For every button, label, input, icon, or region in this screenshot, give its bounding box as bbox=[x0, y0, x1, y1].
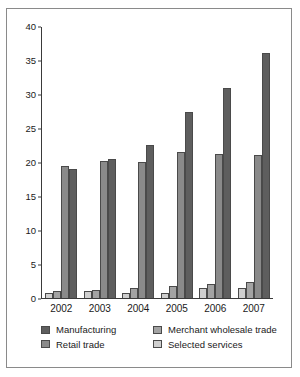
legend-swatch-icon bbox=[41, 340, 50, 348]
y-axis-tick-mark bbox=[38, 95, 41, 96]
plot-area: 0510152025303540 20022003200420052006200… bbox=[41, 27, 273, 299]
bar bbox=[185, 112, 193, 298]
legend-item-label: Manufacturing bbox=[56, 325, 116, 335]
y-axis-tick-mark bbox=[38, 299, 41, 300]
y-axis-tick-label: 20 bbox=[25, 158, 36, 168]
bar bbox=[45, 293, 53, 298]
bar bbox=[53, 291, 61, 298]
bar bbox=[130, 288, 138, 298]
bar bbox=[262, 53, 270, 298]
legend-swatch-icon bbox=[41, 326, 50, 334]
y-axis-tick-mark bbox=[38, 265, 41, 266]
bar bbox=[207, 284, 215, 298]
bar bbox=[69, 169, 77, 298]
bar bbox=[199, 288, 207, 298]
bar bbox=[177, 152, 185, 298]
bar-groups bbox=[42, 27, 273, 298]
bar bbox=[161, 293, 169, 298]
y-axis-tick-mark bbox=[38, 27, 41, 28]
bar-group-2006 bbox=[196, 27, 235, 298]
x-axis-tick-label: 2005 bbox=[158, 299, 197, 314]
x-axis-tick-label: 2007 bbox=[235, 299, 274, 314]
x-axis-tick-label: 2003 bbox=[81, 299, 120, 314]
bar bbox=[223, 88, 231, 298]
chart-page: 0510152025303540 20022003200420052006200… bbox=[0, 0, 300, 377]
y-axis-tick-label: 5 bbox=[31, 260, 36, 270]
bar-group-2004 bbox=[119, 27, 158, 298]
bar bbox=[246, 282, 254, 298]
bar-group-2007 bbox=[235, 27, 274, 298]
bar-group-2002 bbox=[42, 27, 81, 298]
bar bbox=[215, 154, 223, 298]
y-axis-tick-label: 0 bbox=[31, 294, 36, 304]
x-axis-tick-label: 2004 bbox=[119, 299, 158, 314]
bar bbox=[238, 288, 246, 298]
scan-artifact-text bbox=[10, 0, 190, 5]
y-axis-tick-label: 15 bbox=[25, 192, 36, 202]
legend-item: Merchant wholesale trade bbox=[153, 325, 281, 335]
legend-item: Selected services bbox=[153, 340, 281, 350]
legend-item-label: Retail trade bbox=[56, 340, 105, 350]
y-axis-tick-mark bbox=[38, 129, 41, 130]
legend-item: Manufacturing bbox=[41, 325, 153, 335]
x-axis-tick-label: 2002 bbox=[42, 299, 81, 314]
legend-item-label: Merchant wholesale trade bbox=[168, 325, 277, 335]
y-axis-tick-mark bbox=[38, 61, 41, 62]
y-axis-tick-label: 30 bbox=[25, 90, 36, 100]
bar-group-2003 bbox=[81, 27, 120, 298]
bar bbox=[254, 155, 262, 298]
y-axis-tick-mark bbox=[38, 163, 41, 164]
bar bbox=[84, 291, 92, 298]
x-axis-labels: 200220032004200520062007 bbox=[42, 299, 273, 314]
y-axis-tick-label: 40 bbox=[25, 22, 36, 32]
chart-legend: ManufacturingMerchant wholesale tradeRet… bbox=[41, 325, 281, 349]
bar bbox=[61, 166, 69, 298]
y-axis-tick-mark bbox=[38, 231, 41, 232]
bar bbox=[100, 161, 108, 298]
bar bbox=[169, 286, 177, 298]
y-axis-tick-label: 25 bbox=[25, 124, 36, 134]
y-axis-tick-label: 35 bbox=[25, 56, 36, 66]
y-axis-tick-mark bbox=[38, 197, 41, 198]
bar bbox=[122, 293, 130, 298]
bar bbox=[146, 145, 154, 298]
legend-swatch-icon bbox=[153, 340, 162, 348]
x-axis-tick-label: 2006 bbox=[196, 299, 235, 314]
chart-frame: 0510152025303540 20022003200420052006200… bbox=[6, 8, 292, 368]
legend-item: Retail trade bbox=[41, 340, 153, 350]
bar bbox=[108, 159, 116, 298]
bar-group-2005 bbox=[158, 27, 197, 298]
bar bbox=[92, 290, 100, 298]
legend-item-label: Selected services bbox=[168, 340, 242, 350]
y-axis-tick-label: 10 bbox=[25, 226, 36, 236]
bar bbox=[138, 162, 146, 298]
legend-swatch-icon bbox=[153, 326, 162, 334]
